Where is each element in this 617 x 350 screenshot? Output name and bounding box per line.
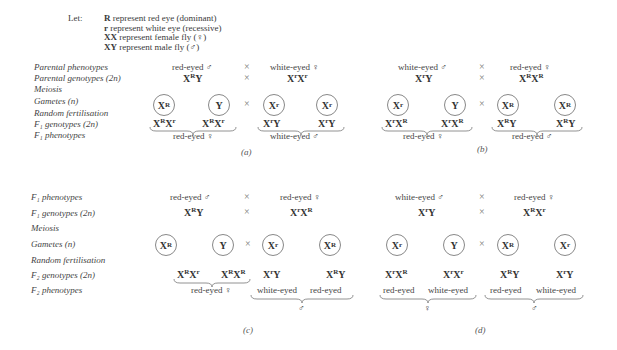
c-gamete-2: Y bbox=[212, 234, 234, 256]
a-parent1-phenotype: red-eyed ♂ bbox=[172, 62, 212, 72]
d-brace-female bbox=[380, 295, 476, 303]
d-cross-symbol-3: × bbox=[479, 238, 485, 249]
label-f1-phenotypes-2: F₁ phenotypes bbox=[31, 192, 82, 202]
c-offspring-4: XRY bbox=[326, 269, 346, 280]
b-cross-symbol-3: × bbox=[479, 98, 485, 109]
a-caption: (a) bbox=[241, 147, 252, 157]
d-offspring-4: XrY bbox=[556, 269, 574, 280]
a-gamete-2: Y bbox=[208, 94, 230, 116]
label-parental-phenotypes: Parental phenotypes bbox=[34, 62, 108, 72]
d-parent2-genotype: XRXr bbox=[523, 207, 546, 218]
d-offspring-1: XrXR bbox=[385, 269, 408, 280]
a-cross-symbol-3: × bbox=[244, 98, 250, 109]
label-parental-genotypes: Parental genotypes (2n) bbox=[34, 73, 121, 83]
c-parent2-phenotype: red-eyed ♀ bbox=[280, 192, 320, 202]
d-gamete-2: Y bbox=[443, 234, 465, 256]
d-gamete-3: XR bbox=[497, 234, 519, 256]
label-random-fertilisation-2: Random fertilisation bbox=[31, 255, 105, 265]
legend: Let: bbox=[68, 14, 83, 24]
c-gamete-1: XR bbox=[155, 234, 177, 256]
b-gamete-4: XR bbox=[554, 94, 576, 116]
a-gamete-1: XR bbox=[153, 94, 175, 116]
d-female-pheno-white: white-eyed bbox=[428, 285, 468, 295]
a-cross-symbol: × bbox=[244, 61, 250, 72]
d-cross-symbol-2: × bbox=[479, 206, 485, 217]
a-parent2-genotype: XrXr bbox=[287, 73, 308, 84]
label-meiosis: Meiosis bbox=[34, 84, 62, 94]
c-gamete-3: Xr bbox=[262, 234, 284, 256]
label-f1-genotypes-2: F₁ genotypes (2n) bbox=[31, 208, 95, 218]
c-male-pheno-white: white-eyed bbox=[257, 285, 297, 295]
d-offspring-2: XrXr bbox=[443, 269, 464, 280]
d-offspring-3: XRY bbox=[500, 269, 520, 280]
c-cross-symbol-3: × bbox=[245, 238, 251, 249]
b-phenotype-female: red-eyed ♀ bbox=[403, 131, 443, 141]
d-female-sex-symbol: ♀ bbox=[424, 303, 431, 313]
a-parent1-genotype: XRY bbox=[183, 73, 203, 84]
d-gamete-1: Xr bbox=[386, 234, 408, 256]
c-caption: (c) bbox=[243, 325, 253, 335]
c-cross-symbol: × bbox=[244, 191, 250, 202]
c-parent1-genotype: XRY bbox=[184, 207, 204, 218]
a-parent2-phenotype: white-eyed ♀ bbox=[270, 62, 319, 72]
d-male-pheno-white: white-eyed bbox=[536, 285, 576, 295]
d-cross-symbol: × bbox=[479, 191, 485, 202]
d-gamete-4: Xr bbox=[554, 234, 576, 256]
b-parent1-genotype: XrY bbox=[415, 73, 433, 84]
c-cross-symbol-2: × bbox=[244, 206, 250, 217]
label-f1-genotypes: F₁ genotypes (2n) bbox=[34, 119, 98, 129]
b-cross-symbol: × bbox=[479, 61, 485, 72]
b-gamete-2: Y bbox=[444, 94, 466, 116]
label-meiosis-2: Meiosis bbox=[31, 223, 59, 233]
label-random-fertilisation: Random fertilisation bbox=[34, 108, 108, 118]
c-brace-male bbox=[251, 295, 353, 303]
d-male-pheno-red: red-eyed bbox=[490, 285, 521, 295]
d-parent1-genotype: XrY bbox=[418, 207, 436, 218]
a-gamete-4: Xr bbox=[316, 94, 338, 116]
legend-line-male: XY represent male fly (♂) bbox=[104, 43, 221, 53]
d-male-sex-symbol: ♂ bbox=[531, 303, 538, 313]
legend-lines: R represent red eye (dominant) r represe… bbox=[104, 14, 221, 52]
d-parent1-phenotype: white-eyed ♂ bbox=[395, 192, 444, 202]
label-f2-genotypes: F₂ genotypes (2n) bbox=[31, 270, 95, 280]
d-female-pheno-red: red-eyed bbox=[383, 285, 414, 295]
b-caption: (b) bbox=[477, 144, 488, 154]
b-parent1-phenotype: white-eyed ♂ bbox=[398, 62, 447, 72]
legend-let: Let: bbox=[68, 13, 83, 23]
b-cross-symbol-2: × bbox=[479, 72, 485, 83]
a-cross-symbol-2: × bbox=[244, 72, 250, 83]
b-parent2-phenotype: red-eyed ♀ bbox=[510, 62, 550, 72]
label-f1-phenotypes: F₁ phenotypes bbox=[34, 130, 85, 140]
c-male-sex-symbol: ♂ bbox=[298, 303, 305, 313]
label-gametes: Gametes (n) bbox=[34, 96, 78, 106]
b-parent2-genotype: XRXR bbox=[519, 73, 544, 84]
c-male-pheno-red: red-eyed bbox=[310, 285, 341, 295]
d-brace-male bbox=[485, 295, 583, 303]
d-caption: (d) bbox=[475, 325, 486, 335]
d-parent2-phenotype: red-eyed ♀ bbox=[514, 192, 554, 202]
label-gametes-2: Gametes (n) bbox=[31, 239, 75, 249]
c-gamete-4: XR bbox=[319, 234, 341, 256]
b-gamete-1: Xr bbox=[387, 94, 409, 116]
b-gamete-3: XR bbox=[497, 94, 519, 116]
c-phenotype-female: red-eyed ♀ bbox=[191, 285, 231, 295]
a-phenotype-male: white-eyed ♂ bbox=[270, 131, 319, 141]
c-parent1-phenotype: red-eyed ♂ bbox=[170, 192, 210, 202]
c-parent2-genotype: XrXR bbox=[290, 207, 313, 218]
label-f2-phenotypes: F₂ phenotypes bbox=[31, 285, 82, 295]
a-gamete-3: Xr bbox=[263, 94, 285, 116]
b-phenotype-male: red-eyed ♂ bbox=[512, 131, 552, 141]
c-offspring-3: XrY bbox=[263, 269, 281, 280]
a-phenotype-female: red-eyed ♀ bbox=[173, 131, 213, 141]
